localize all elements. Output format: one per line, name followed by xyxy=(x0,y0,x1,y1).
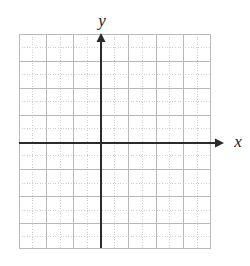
axes-group xyxy=(19,33,224,248)
minor-gridlines-group xyxy=(19,34,211,248)
y-axis-label: y xyxy=(92,12,112,29)
coordinate-grid-figure: y x xyxy=(0,0,250,266)
x-axis-arrowhead-icon xyxy=(215,139,224,148)
coordinate-plane-svg xyxy=(0,0,250,266)
x-axis-label: x xyxy=(228,133,248,150)
